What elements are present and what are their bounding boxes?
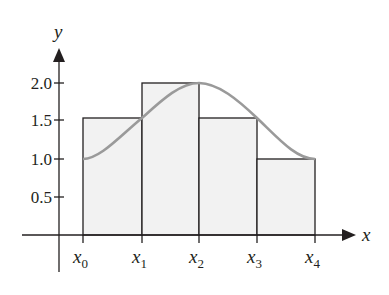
rectangle-4 [257,159,315,235]
y-axis-label: y [52,21,63,42]
rectangle-3 [199,118,257,235]
y-tick-label: 1.0 [31,150,52,169]
x-tick-label-0: x0 [72,246,88,271]
y-axis-arrow-icon [53,48,65,62]
rectangles [83,83,315,235]
x-tick-label-2: x2 [188,246,204,271]
x-tick-label-3: x3 [246,246,262,271]
y-tick-label: 0.5 [31,188,52,207]
y-tick-label: 1.5 [31,111,52,130]
rectangle-2 [142,83,199,235]
x-axis-arrow-icon [342,229,356,241]
x-tick-label-4: x4 [304,246,320,271]
x-ticks: x0 x1 x2 x3 x4 [72,235,320,271]
rectangle-1 [83,118,142,235]
y-tick-label: 2.0 [31,74,52,93]
riemann-sum-diagram: 2.0 1.5 1.0 0.5 x0 x1 x2 x3 x4 y x [0,0,389,295]
x-tick-label-1: x1 [131,246,147,271]
x-axis-label: x [361,224,371,245]
